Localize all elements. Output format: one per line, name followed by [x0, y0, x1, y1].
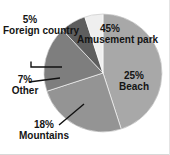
slice-percent-amusement-park: 45% [77, 23, 143, 34]
figure-right-border [169, 0, 170, 155]
slice-name-foreign-country: Foreign country [3, 25, 57, 36]
slice-label-beach: 25% Beach [112, 70, 156, 92]
slice-name-beach: Beach [112, 81, 156, 92]
slice-name-other: Other [3, 85, 47, 96]
slice-percent-foreign-country: 5% [3, 14, 57, 25]
slice-label-mountains: 18% Mountains [8, 119, 80, 141]
slice-label-amusement-park: 45% Amusement park [77, 23, 143, 45]
slice-name-amusement-park: Amusement park [77, 34, 143, 45]
slice-percent-other: 7% [3, 74, 47, 85]
pie-chart-figure: 45% Amusement park 25% Beach 5% Foreign … [0, 0, 170, 155]
slice-name-mountains: Mountains [8, 130, 80, 141]
slice-label-other: 7% Other [3, 74, 47, 96]
slice-percent-mountains: 18% [8, 119, 80, 130]
figure-bottom-border [0, 154, 170, 155]
slice-percent-beach: 25% [112, 70, 156, 81]
slice-label-foreign-country: 5% Foreign country [3, 14, 57, 36]
